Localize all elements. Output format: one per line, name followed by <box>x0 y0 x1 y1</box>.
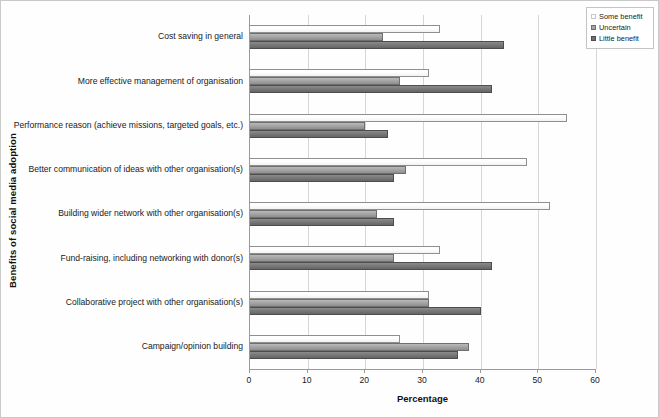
category-label-text: Better communication of ideas with other… <box>29 165 243 174</box>
bar-4-0 <box>250 202 550 210</box>
bar-chart: Benefits of social media adoption Cost s… <box>0 0 659 418</box>
category-label-text: Collaborative project with other organis… <box>66 298 243 307</box>
bar-2-0 <box>250 114 567 122</box>
bar-2-2 <box>250 130 388 138</box>
x-axis-tick-labels: 0102030405060 <box>249 375 596 389</box>
legend-item-label: Little benefit <box>599 34 639 43</box>
bar-0-0 <box>250 25 440 33</box>
y-axis-title-text: Benefits of social media adoption <box>7 133 18 288</box>
category-label-7: Campaign/opinion building <box>21 325 247 369</box>
x-tick-0 <box>249 369 250 373</box>
bar-6-1 <box>250 299 429 307</box>
bar-4-1 <box>250 210 377 218</box>
bar-group-1 <box>250 59 596 103</box>
x-tick-label-10: 10 <box>302 375 312 385</box>
category-label-text: Performance reason (achieve missions, ta… <box>14 121 243 130</box>
category-label-1: More effective management of organisatio… <box>21 59 247 103</box>
x-tick-10 <box>307 369 308 373</box>
bar-1-0 <box>250 69 429 77</box>
bar-1-2 <box>250 85 492 93</box>
x-tick-40 <box>480 369 481 373</box>
bar-5-1 <box>250 254 394 262</box>
x-tick-50 <box>537 369 538 373</box>
x-tick-30 <box>422 369 423 373</box>
category-label-text: Cost saving in general <box>158 32 243 41</box>
bar-1-1 <box>250 77 400 85</box>
category-label-text: Building wider network with other organi… <box>58 209 243 218</box>
category-label-0: Cost saving in general <box>21 15 247 59</box>
bar-5-0 <box>250 246 440 254</box>
bar-4-2 <box>250 218 394 226</box>
legend-swatch-icon <box>591 36 596 41</box>
bar-group-0 <box>250 15 596 59</box>
legend-item-label: Uncertain <box>599 23 631 32</box>
bar-groups <box>250 15 596 369</box>
x-tick-label-50: 50 <box>533 375 543 385</box>
bar-7-1 <box>250 343 469 351</box>
y-axis-category-labels: Cost saving in generalMore effective man… <box>21 15 247 369</box>
category-label-text: Campaign/opinion building <box>142 342 243 351</box>
bar-group-3 <box>250 148 596 192</box>
x-tick-60 <box>595 369 596 373</box>
x-tick-label-20: 20 <box>360 375 370 385</box>
x-tick-20 <box>364 369 365 373</box>
plot-area <box>249 15 596 369</box>
legend-item-1[interactable]: Uncertain <box>591 22 649 32</box>
bar-3-2 <box>250 174 394 182</box>
legend-swatch-icon <box>591 25 596 30</box>
bar-2-1 <box>250 122 365 130</box>
bar-7-0 <box>250 335 400 343</box>
bar-3-1 <box>250 166 406 174</box>
legend-swatch-icon <box>591 14 596 19</box>
category-label-5: Fund-raising, including networking with … <box>21 236 247 280</box>
x-tick-label-30: 30 <box>417 375 427 385</box>
bar-3-0 <box>250 158 527 166</box>
legend-item-label: Some benefit <box>599 12 643 21</box>
category-label-2: Performance reason (achieve missions, ta… <box>21 104 247 148</box>
y-axis-title: Benefits of social media adoption <box>3 1 21 418</box>
bar-7-2 <box>250 351 458 359</box>
x-axis-title: Percentage <box>249 393 596 404</box>
category-label-text: Fund-raising, including networking with … <box>61 254 243 263</box>
bar-0-2 <box>250 41 504 49</box>
category-label-4: Building wider network with other organi… <box>21 192 247 236</box>
category-label-3: Better communication of ideas with other… <box>21 148 247 192</box>
bar-group-5 <box>250 236 596 280</box>
bar-group-6 <box>250 281 596 325</box>
x-tick-label-0: 0 <box>247 375 252 385</box>
bar-6-0 <box>250 291 429 299</box>
bar-group-7 <box>250 325 596 369</box>
x-tick-label-40: 40 <box>475 375 485 385</box>
bar-6-2 <box>250 307 481 315</box>
category-label-text: More effective management of organisatio… <box>78 77 243 86</box>
bar-0-1 <box>250 33 383 41</box>
x-tick-label-60: 60 <box>590 375 600 385</box>
legend: Some benefitUncertainLittle benefit <box>586 7 654 49</box>
gridline-60 <box>596 15 597 369</box>
category-label-6: Collaborative project with other organis… <box>21 281 247 325</box>
bar-group-2 <box>250 104 596 148</box>
legend-item-2[interactable]: Little benefit <box>591 33 649 43</box>
bar-5-2 <box>250 262 492 270</box>
bar-group-4 <box>250 192 596 236</box>
legend-item-0[interactable]: Some benefit <box>591 11 649 21</box>
